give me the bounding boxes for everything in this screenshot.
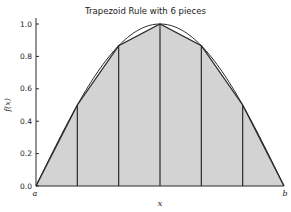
- x-axis-label: x: [158, 199, 163, 208]
- x-tick-label-b: b: [282, 189, 287, 198]
- plot-area: [36, 24, 284, 186]
- y-axis-label: f(x): [3, 98, 12, 113]
- y-tick-label: 0.4: [20, 117, 32, 126]
- y-tick-label: 0.6: [20, 84, 32, 93]
- y-tick-label: 0.8: [20, 52, 32, 61]
- trapezoid-chart: 0.00.20.40.60.81.0abxf(x): [0, 0, 291, 212]
- y-tick-label: 0.0: [20, 182, 32, 191]
- x-tick-label-a: a: [33, 189, 38, 198]
- y-tick-label: 1.0: [20, 20, 32, 29]
- y-tick-label: 0.2: [20, 149, 32, 158]
